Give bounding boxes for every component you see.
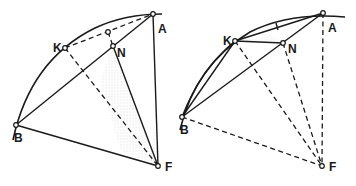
right-label-F: F <box>329 160 336 174</box>
right-label-N: N <box>288 42 297 56</box>
left-point-A <box>151 12 156 17</box>
left-point-B <box>14 123 19 128</box>
right-chord-KA <box>235 13 323 41</box>
left-point-K <box>63 46 68 51</box>
right-dashed-AF <box>322 13 323 166</box>
right-point-B <box>180 115 185 120</box>
right-label-B: B <box>180 123 189 137</box>
right-label-K: K <box>223 34 232 48</box>
left-label-N: N <box>117 46 126 60</box>
left-label-F: F <box>165 160 172 174</box>
right-chord-BK <box>182 41 235 117</box>
right-tick-mark <box>276 23 278 30</box>
right-label-A: A <box>328 21 337 35</box>
left-diagram: A K N B F <box>13 12 172 174</box>
left-point-N <box>111 44 116 49</box>
right-dashed-BF <box>182 117 322 166</box>
right-dashed-NF <box>283 43 322 166</box>
left-point-M <box>106 30 111 35</box>
left-point-F <box>156 164 161 169</box>
right-point-K <box>233 39 238 44</box>
left-label-K: K <box>53 41 62 55</box>
right-dashed-KF <box>235 41 322 166</box>
geometry-figure: A K N B F A K N B F <box>0 0 356 186</box>
right-point-F <box>320 164 325 169</box>
left-label-A: A <box>158 22 167 36</box>
right-point-N <box>281 41 286 46</box>
right-point-A <box>321 11 326 16</box>
left-label-B: B <box>14 131 23 145</box>
right-diagram: A K N B F <box>180 11 345 174</box>
left-shaded-region <box>100 46 158 166</box>
